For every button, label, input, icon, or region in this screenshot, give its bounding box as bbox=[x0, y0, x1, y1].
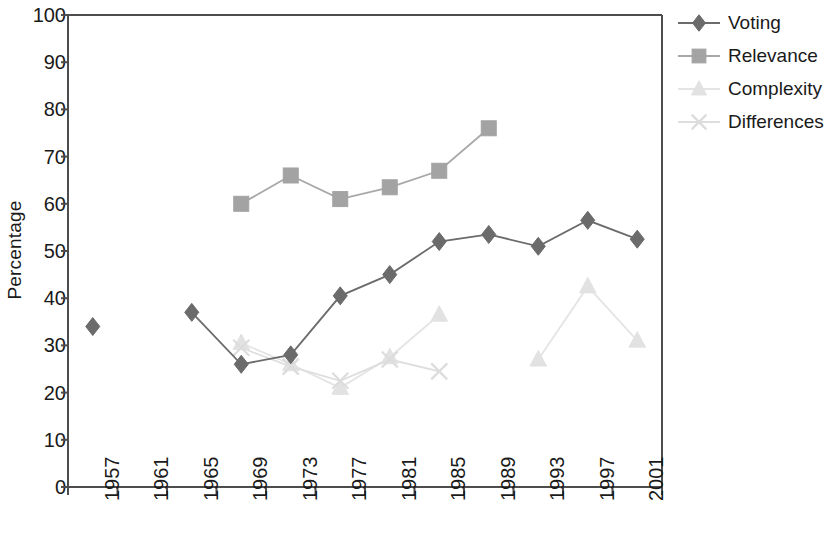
legend-marker-square-icon bbox=[676, 43, 722, 69]
legend-label: Complexity bbox=[722, 78, 822, 100]
legend-label: Voting bbox=[722, 12, 781, 34]
data-point-marker-triangle bbox=[691, 80, 706, 94]
legend-item-relevance[interactable]: Relevance bbox=[676, 39, 827, 72]
line-chart: Percentage 0102030405060708090100 195719… bbox=[0, 0, 827, 545]
legend-marker-svg bbox=[676, 10, 722, 36]
legend-item-differences[interactable]: Differences bbox=[676, 105, 827, 138]
legend-marker-svg bbox=[676, 76, 722, 102]
legend-marker-svg bbox=[676, 109, 722, 135]
x-axis-tick-label: 1981 bbox=[398, 457, 421, 502]
x-axis-tick-label: 1957 bbox=[101, 457, 124, 502]
x-axis-tick-label: 1977 bbox=[348, 457, 371, 502]
data-point-marker-square bbox=[692, 49, 706, 63]
data-point-marker-diamond bbox=[693, 14, 706, 31]
x-axis-tick-label: 1997 bbox=[596, 457, 619, 502]
x-axis-tick-label: 2001 bbox=[645, 457, 668, 502]
x-axis-tick-label: 1973 bbox=[299, 457, 322, 502]
x-axis-tick-label: 1969 bbox=[249, 457, 272, 502]
legend-item-complexity[interactable]: Complexity bbox=[676, 72, 827, 105]
legend-marker-diamond-icon bbox=[676, 10, 722, 36]
x-axis-tick-label: 1965 bbox=[200, 457, 223, 502]
x-axis-tick-label: 1989 bbox=[497, 457, 520, 502]
chart-legend: VotingRelevanceComplexityDifferences bbox=[676, 6, 827, 138]
legend-marker-x-icon bbox=[676, 109, 722, 135]
legend-marker-svg bbox=[676, 43, 722, 69]
x-axis-tick-label: 1993 bbox=[546, 457, 569, 502]
legend-label: Differences bbox=[722, 111, 824, 133]
legend-item-voting[interactable]: Voting bbox=[676, 6, 827, 39]
x-axis-tick-label: 1961 bbox=[150, 457, 173, 502]
legend-label: Relevance bbox=[722, 45, 818, 67]
legend-marker-triangle-icon bbox=[676, 76, 722, 102]
x-axis-tick-label: 1985 bbox=[447, 457, 470, 502]
